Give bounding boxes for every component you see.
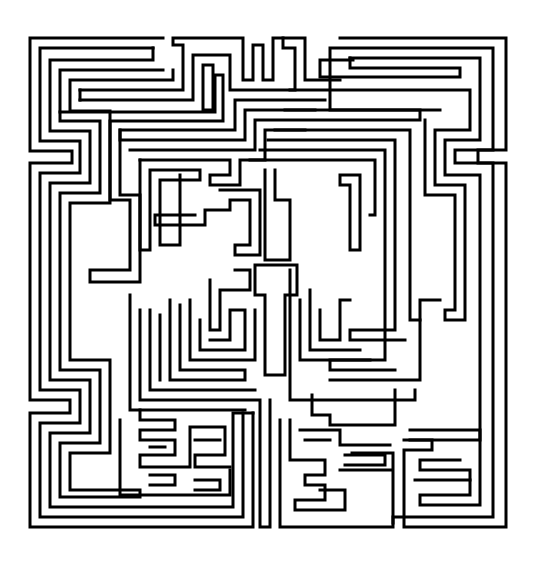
maze-wall	[300, 430, 390, 445]
maze-wall	[290, 420, 345, 510]
maze-wall	[140, 160, 200, 250]
maze-wall	[340, 175, 360, 250]
maze-wall	[290, 90, 470, 320]
maze-wall	[120, 110, 315, 140]
maze-wall	[312, 390, 395, 425]
maze-wall	[130, 295, 245, 410]
maze-wall	[410, 430, 480, 440]
maze-wall	[130, 48, 493, 523]
maze-wall	[140, 130, 305, 185]
maze-wall	[200, 310, 245, 350]
maze-wall	[250, 160, 375, 215]
maze-wall	[320, 300, 350, 340]
maze-diagram	[0, 0, 534, 565]
maze-wall	[265, 170, 290, 260]
maze-walls	[30, 38, 506, 527]
maze-wall	[150, 475, 175, 485]
maze-wall	[195, 480, 220, 490]
maze-wall	[345, 455, 385, 465]
maze-wall	[203, 65, 213, 110]
maze-wall	[350, 58, 480, 505]
maze-wall	[170, 300, 245, 380]
maze-wall	[320, 58, 460, 77]
